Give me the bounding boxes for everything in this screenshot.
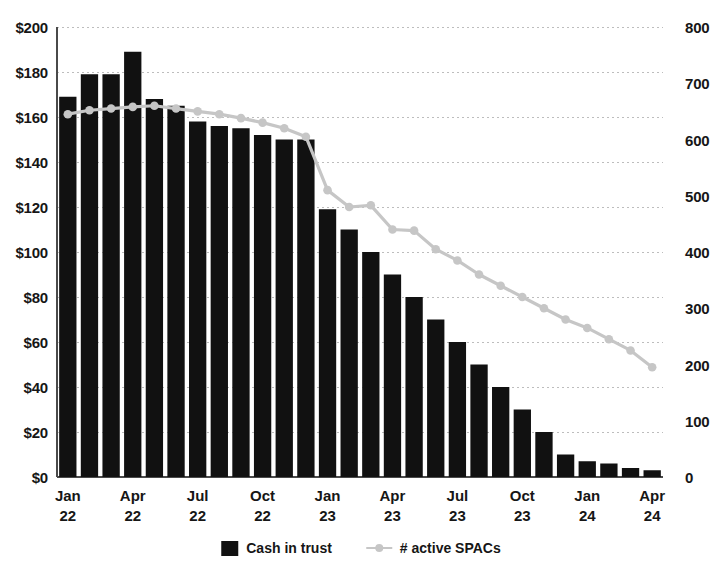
y-axis-left-tick-label: $160: [15, 109, 48, 126]
y-axis-left-tick-label: $200: [15, 19, 48, 36]
bar: [211, 126, 228, 477]
bar: [232, 128, 249, 477]
x-tick-month: Jan: [55, 486, 81, 506]
bar: [59, 97, 76, 477]
x-tick-year: 23: [380, 506, 406, 526]
y-axis-left-tick-label: $140: [15, 154, 48, 171]
x-tick-year: 22: [187, 506, 209, 526]
line-marker: [410, 226, 419, 235]
y-axis-right-tick-label: 700: [685, 75, 709, 92]
bar: [102, 74, 119, 477]
line-marker: [388, 225, 397, 234]
x-tick-year: 24: [639, 506, 665, 526]
x-tick-month: Apr: [380, 486, 406, 506]
line-marker: [496, 281, 505, 290]
spac-chart: $0$20$40$60$80$100$120$140$160$180$200 0…: [0, 0, 722, 564]
y-axis-right-tick-label: 400: [685, 244, 709, 261]
line-marker: [64, 110, 73, 119]
y-axis-right-tick-label: 800: [685, 19, 709, 36]
x-tick-year: 22: [55, 506, 81, 526]
y-axis-left-tick-label: $180: [15, 64, 48, 81]
x-axis-tick-label: Jul23: [447, 486, 469, 527]
line-marker: [345, 203, 354, 212]
line-marker: [150, 101, 159, 110]
legend-label: # active SPACs: [400, 540, 501, 556]
legend-item[interactable]: # active SPACs: [366, 540, 501, 556]
bar: [81, 74, 98, 477]
line-marker: [518, 293, 527, 302]
bar: [535, 432, 552, 477]
line-marker: [540, 304, 549, 313]
y-axis-left-tick-label: $20: [24, 424, 48, 441]
y-axis-right-tick-label: 200: [685, 356, 709, 373]
bar: [470, 365, 487, 478]
x-axis-tick-label: Apr22: [120, 486, 146, 527]
bar: [297, 140, 314, 478]
y-axis-left-tick-label: $80: [24, 289, 48, 306]
y-axis-left-tick-label: $100: [15, 244, 48, 261]
x-axis-tick-label: Jan23: [315, 486, 341, 527]
line-marker-icon: [366, 542, 392, 554]
y-axis-left-tick-label: $60: [24, 334, 48, 351]
x-tick-month: Jul: [187, 486, 209, 506]
y-axis-left-tick-label: $40: [24, 379, 48, 396]
bar: [622, 468, 639, 477]
x-axis-tick-label: Jan22: [55, 486, 81, 527]
line-marker: [561, 315, 570, 324]
x-tick-month: Oct: [510, 486, 535, 506]
chart-plot-area: [0, 0, 722, 564]
x-axis-tick-label: Oct22: [250, 486, 275, 527]
x-axis-tick-label: Oct23: [510, 486, 535, 527]
bar: [124, 52, 141, 477]
x-axis-tick-label: Apr23: [380, 486, 406, 527]
bar-series: [59, 52, 661, 477]
x-axis-tick-label: Apr24: [639, 486, 665, 527]
bar: [644, 470, 661, 477]
line-marker: [172, 104, 181, 113]
line-marker: [323, 186, 332, 195]
line-marker: [453, 256, 462, 265]
bar: [514, 410, 531, 478]
x-tick-month: Oct: [250, 486, 275, 506]
x-tick-year: 23: [447, 506, 469, 526]
x-axis-tick-label: Jan24: [574, 486, 600, 527]
x-tick-year: 23: [315, 506, 341, 526]
x-axis-tick-label: Jul22: [187, 486, 209, 527]
bar: [579, 461, 596, 477]
bar: [492, 387, 509, 477]
bar: [405, 297, 422, 477]
bar: [146, 99, 163, 477]
bar: [276, 140, 293, 478]
bar: [319, 209, 336, 477]
y-axis-right-tick-label: 0: [685, 469, 693, 486]
legend-item[interactable]: Cash in trust: [221, 540, 332, 556]
x-tick-year: 23: [510, 506, 535, 526]
x-tick-month: Jul: [447, 486, 469, 506]
bar-swatch-icon: [221, 541, 238, 556]
legend-label: Cash in trust: [246, 540, 332, 556]
line-marker: [280, 124, 289, 133]
line-marker: [193, 107, 202, 116]
chart-legend: Cash in trust# active SPACs: [221, 540, 500, 556]
bar: [189, 122, 206, 478]
line-marker: [648, 363, 657, 372]
bar: [362, 252, 379, 477]
y-axis-right-tick-label: 600: [685, 131, 709, 148]
line-marker: [237, 114, 246, 123]
bar: [427, 320, 444, 478]
bar: [384, 275, 401, 478]
line-marker: [302, 132, 311, 141]
x-tick-month: Jan: [315, 486, 341, 506]
x-tick-year: 22: [120, 506, 146, 526]
x-tick-year: 22: [250, 506, 275, 526]
line-marker: [583, 324, 592, 333]
x-tick-month: Apr: [639, 486, 665, 506]
x-tick-year: 24: [574, 506, 600, 526]
y-axis-left-tick-label: $120: [15, 199, 48, 216]
bar: [449, 342, 466, 477]
bar: [167, 106, 184, 477]
bar: [341, 230, 358, 478]
x-tick-month: Apr: [120, 486, 146, 506]
line-marker: [258, 118, 267, 127]
bar: [600, 464, 617, 478]
